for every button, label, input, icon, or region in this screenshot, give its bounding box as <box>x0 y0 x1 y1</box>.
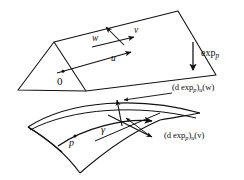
exp-map-label: expp <box>201 48 219 60</box>
figure-canvas: 0 u v w expp p γ (d expp)u(w) (d expp)u(… <box>0 0 244 180</box>
surface-right-edge <box>160 113 200 120</box>
vector-v-label: v <box>134 26 138 36</box>
vector-u-arrow <box>57 52 131 73</box>
surface-bottom-right-curve <box>80 120 160 173</box>
surface-bottom-left-curve <box>28 127 80 173</box>
exp-map-text: exp <box>201 47 215 58</box>
diff-v-arg: (v) <box>194 130 204 140</box>
vector-w-arrow <box>106 27 124 45</box>
diff-w-arg: (w) <box>202 82 214 92</box>
tangent-plane-outline <box>54 11 216 91</box>
diff-w-open: (d exp <box>172 82 193 92</box>
origin-label: 0 <box>57 76 63 87</box>
diff-exp-w-label: (d expp)u(w) <box>172 83 214 93</box>
diff-v-open: (d exp <box>164 130 185 140</box>
surface-interior-ruling <box>30 110 196 130</box>
exp-map-subscript: p <box>215 52 219 60</box>
diff-exp-v-label: (d expp)u(v) <box>164 131 204 141</box>
vector-u-label: u <box>111 54 116 64</box>
vector-w-label: w <box>92 34 98 44</box>
origin-dot <box>62 70 65 73</box>
tangent-plane <box>18 11 216 91</box>
point-p-label: p <box>69 138 74 148</box>
leader-line-w <box>124 93 172 100</box>
tangent-plane-left-fold <box>18 42 86 91</box>
geodesic-label: γ <box>101 125 105 136</box>
